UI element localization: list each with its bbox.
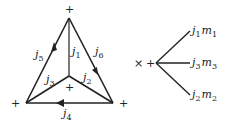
label-j4: j4	[60, 107, 72, 122]
arrow-j4-icon	[56, 99, 64, 107]
sign-center: +	[65, 81, 74, 94]
three-j-vertex	[156, 31, 190, 95]
label-j1: j1	[69, 45, 81, 60]
vertex-sign: +	[146, 57, 155, 70]
label-j3: j3	[43, 73, 55, 88]
branch-label-3: j3m3	[189, 56, 217, 71]
angular-momentum-diagram: + + + + j5 j1 j6 j3 j2 j4 × + j1m1 j3m3 …	[0, 0, 233, 123]
branch-label-1: j1m1	[189, 24, 217, 39]
label-j5: j5	[32, 48, 44, 63]
label-j6: j6	[92, 45, 104, 60]
branch-label-2: j2m2	[189, 88, 217, 103]
sign-left: +	[11, 97, 20, 110]
sign-right: +	[119, 97, 128, 110]
times-symbol: ×	[134, 57, 143, 70]
sign-top: +	[65, 3, 74, 16]
